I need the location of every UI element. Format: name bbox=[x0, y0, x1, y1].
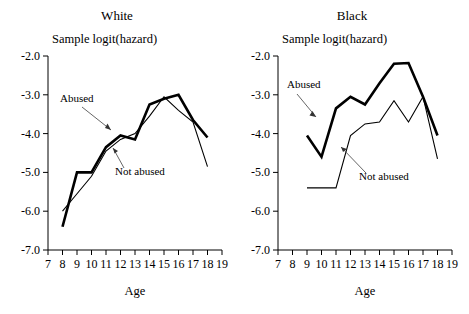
x-tick-label: 11 bbox=[100, 257, 112, 271]
x-tick-label: 19 bbox=[446, 257, 458, 271]
x-tick-label: 10 bbox=[316, 257, 328, 271]
y-axis-title-black: Sample logit(hazard) bbox=[282, 32, 387, 46]
annotation-not-abused-white: Not abused bbox=[113, 148, 165, 177]
x-tick-label: 19 bbox=[216, 257, 228, 271]
y-ticks-white: -2.0 -3.0 -4.0 -5.0 -6.0 -7.0 bbox=[21, 49, 48, 257]
annotation-not-abused-black: Not abused bbox=[341, 147, 409, 182]
series-abused-black bbox=[307, 63, 438, 157]
panel-black: Black Sample logit(hazard) -2.0 -3.0 -4.… bbox=[235, 0, 469, 314]
annotation-abused-black: Abused bbox=[287, 78, 321, 117]
x-tick-label: 9 bbox=[74, 257, 80, 271]
annotation-label: Abused bbox=[287, 78, 321, 90]
x-tick-label: 8 bbox=[290, 257, 296, 271]
x-axis-title-black: Age bbox=[355, 284, 376, 298]
x-tick-label: 14 bbox=[374, 257, 386, 271]
y-tick-label: -2.0 bbox=[251, 49, 270, 63]
panel-white: White Sample logit(hazard) -2.0 -3.0 -4.… bbox=[0, 0, 234, 314]
x-tick-label: 7 bbox=[275, 257, 281, 271]
x-tick-label: 14 bbox=[144, 257, 156, 271]
y-ticks-black: -2.0 -3.0 -4.0 -5.0 -6.0 -7.0 bbox=[251, 49, 278, 257]
x-tick-label: 12 bbox=[345, 257, 357, 271]
y-tick-label: -6.0 bbox=[21, 204, 40, 218]
panel-title-black: Black bbox=[337, 8, 368, 23]
annotation-label: Not abused bbox=[115, 165, 165, 177]
x-tick-label: 18 bbox=[432, 257, 444, 271]
x-tick-label: 16 bbox=[173, 257, 185, 271]
y-tick-label: -7.0 bbox=[251, 243, 270, 257]
y-tick-label: -4.0 bbox=[21, 127, 40, 141]
x-tick-label: 18 bbox=[202, 257, 214, 271]
y-axis-title-white: Sample logit(hazard) bbox=[52, 32, 157, 46]
x-tick-label: 7 bbox=[45, 257, 51, 271]
y-tick-label: -6.0 bbox=[251, 204, 270, 218]
panel-title-white: White bbox=[101, 8, 133, 23]
annotation-abused-white: Abused bbox=[60, 92, 111, 130]
y-tick-label: -5.0 bbox=[251, 165, 270, 179]
series-abused-white bbox=[63, 95, 208, 227]
annotation-label: Abused bbox=[60, 92, 94, 104]
x-tick-label: 11 bbox=[330, 257, 342, 271]
x-tick-label: 10 bbox=[86, 257, 98, 271]
y-tick-label: -2.0 bbox=[21, 49, 40, 63]
annotation-label: Not abused bbox=[359, 170, 409, 182]
x-tick-label: 15 bbox=[388, 257, 400, 271]
series-not-abused-white bbox=[63, 97, 208, 211]
figure-container: White Sample logit(hazard) -2.0 -3.0 -4.… bbox=[0, 0, 469, 314]
chart-black: Black Sample logit(hazard) -2.0 -3.0 -4.… bbox=[235, 0, 469, 314]
x-tick-label: 17 bbox=[417, 257, 429, 271]
x-ticks-white: 7 8 9 10 11 12 13 14 15 16 17 18 19 bbox=[45, 250, 228, 271]
x-tick-label: 8 bbox=[60, 257, 66, 271]
x-tick-label: 17 bbox=[187, 257, 199, 271]
x-tick-label: 13 bbox=[359, 257, 371, 271]
y-tick-label: -4.0 bbox=[251, 127, 270, 141]
x-tick-label: 15 bbox=[158, 257, 170, 271]
x-ticks-black: 7 8 9 10 11 12 13 14 15 16 17 18 19 bbox=[275, 250, 458, 271]
y-tick-label: -3.0 bbox=[251, 88, 270, 102]
y-tick-label: -7.0 bbox=[21, 243, 40, 257]
x-tick-label: 13 bbox=[129, 257, 141, 271]
x-axis-title-white: Age bbox=[125, 284, 146, 298]
x-tick-label: 16 bbox=[403, 257, 415, 271]
x-tick-label: 12 bbox=[115, 257, 127, 271]
y-tick-label: -3.0 bbox=[21, 88, 40, 102]
chart-white: White Sample logit(hazard) -2.0 -3.0 -4.… bbox=[0, 0, 234, 314]
y-tick-label: -5.0 bbox=[21, 165, 40, 179]
x-tick-label: 9 bbox=[304, 257, 310, 271]
